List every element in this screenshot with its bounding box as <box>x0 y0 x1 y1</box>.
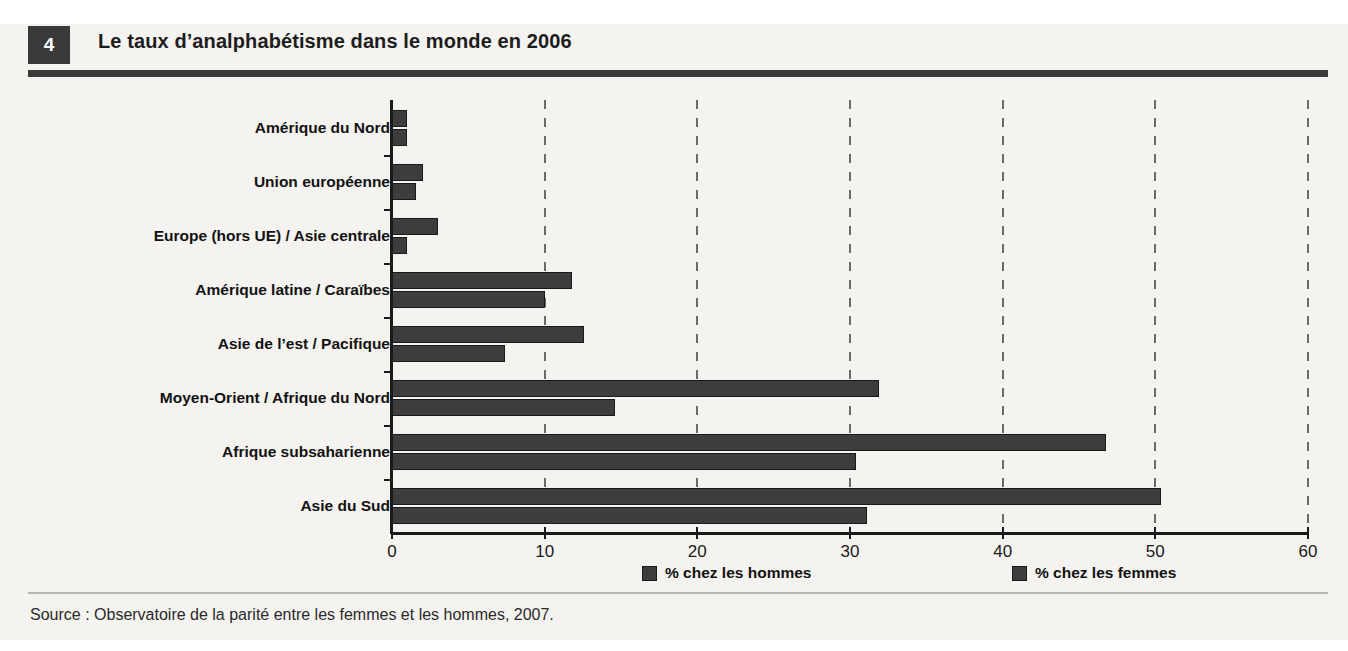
page-bottom-margin <box>0 640 1348 651</box>
chart-legend: % chez les hommes% chez les femmes <box>392 564 1308 590</box>
chart-row: Amérique latine / Caraïbes <box>28 262 1328 318</box>
bar-hommes <box>392 110 407 127</box>
chart-row: Union européenne <box>28 154 1328 210</box>
bar-hommes <box>392 380 879 397</box>
legend-swatch-icon <box>642 566 657 581</box>
chart-row: Asie de l’est / Pacifique <box>28 316 1328 372</box>
bar-hommes <box>392 434 1106 451</box>
legend-swatch-icon <box>1012 566 1027 581</box>
legend-item-femmes: % chez les femmes <box>1012 564 1176 582</box>
chart-row: Europe (hors UE) / Asie centrale <box>28 208 1328 264</box>
bar-hommes <box>392 164 423 181</box>
bar-femmes <box>392 237 407 254</box>
legend-label: % chez les femmes <box>1035 564 1176 582</box>
category-label: Amérique latine / Caraïbes <box>195 281 390 299</box>
bar-femmes <box>392 291 545 308</box>
plot-area: 0102030405060Amérique du NordUnion europ… <box>28 80 1328 590</box>
x-axis-tick-label: 20 <box>688 542 707 562</box>
header-divider <box>28 70 1328 77</box>
x-axis-tick-label: 60 <box>1299 542 1318 562</box>
bar-femmes <box>392 345 505 362</box>
figure-title: Le taux d’analphabétisme dans le monde e… <box>98 30 572 53</box>
bar-femmes <box>392 129 407 146</box>
x-axis-tick-label: 40 <box>993 542 1012 562</box>
figure-number: 4 <box>44 34 55 56</box>
bar-hommes <box>392 488 1161 505</box>
category-label: Europe (hors UE) / Asie centrale <box>154 227 390 245</box>
source-note: Source : Observatoire de la parité entre… <box>30 606 554 624</box>
bar-femmes <box>392 507 867 524</box>
chart-row: Amérique du Nord <box>28 100 1328 156</box>
chart-row: Moyen-Orient / Afrique du Nord <box>28 370 1328 426</box>
figure-header: 4 Le taux d’analphabétisme dans le monde… <box>28 26 1328 66</box>
x-axis-tick-label: 10 <box>535 542 554 562</box>
category-label: Asie du Sud <box>300 497 390 515</box>
x-axis-tick-label: 30 <box>841 542 860 562</box>
bar-femmes <box>392 399 615 416</box>
bar-hommes <box>392 326 584 343</box>
chart-row: Asie du Sud <box>28 478 1328 534</box>
x-axis-tick-label: 50 <box>1146 542 1165 562</box>
category-label: Moyen-Orient / Afrique du Nord <box>160 389 390 407</box>
page-top-margin <box>0 0 1348 24</box>
bar-femmes <box>392 453 856 470</box>
bar-femmes <box>392 183 416 200</box>
category-label: Asie de l’est / Pacifique <box>218 335 390 353</box>
bar-hommes <box>392 272 572 289</box>
category-label: Union européenne <box>254 173 390 191</box>
bar-hommes <box>392 218 438 235</box>
category-label: Amérique du Nord <box>255 119 390 137</box>
legend-label: % chez les hommes <box>665 564 811 582</box>
figure-number-badge: 4 <box>28 26 70 64</box>
category-label: Afrique subsaharienne <box>222 443 390 461</box>
legend-item-hommes: % chez les hommes <box>642 564 811 582</box>
x-axis-tick-label: 0 <box>387 542 396 562</box>
chart-panel: 0102030405060Amérique du NordUnion europ… <box>28 80 1328 590</box>
source-divider <box>28 592 1328 594</box>
figure-container: 4 Le taux d’analphabétisme dans le monde… <box>0 0 1348 651</box>
chart-row: Afrique subsaharienne <box>28 424 1328 480</box>
